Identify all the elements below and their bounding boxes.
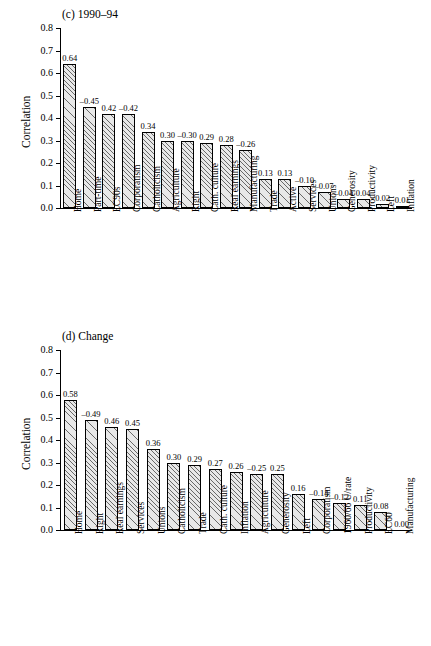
chart-panel-c: (c) 1990–94 Correlation0.00.10.20.30.40.… (0, 0, 431, 320)
bar (63, 64, 76, 208)
x-axis-category-label: Home (73, 189, 83, 212)
y-axis-tick-label: 0.8 (29, 22, 53, 33)
x-axis-category-label: Cath. culture (210, 163, 220, 212)
x-axis-category-label: Agriculture (260, 490, 270, 534)
y-axis-tick-label: 0.2 (29, 157, 53, 168)
y-axis-line (60, 350, 61, 531)
x-axis-category-label: Home (74, 511, 84, 534)
x-axis-category-label: Inflation (240, 501, 250, 534)
bar-value-label: –0.26 (231, 139, 261, 149)
y-axis-tick-label: 0.5 (29, 412, 53, 423)
x-axis-category-label: Manufacturing (249, 156, 259, 212)
x-axis-category-label: Catholicism (152, 166, 162, 212)
y-axis-tick-label: 0.7 (29, 367, 53, 378)
y-axis-tick-label: 0.3 (29, 135, 53, 146)
x-axis-category-label: Left (302, 518, 312, 534)
x-axis-category-label: Catholicism (177, 488, 187, 534)
bar-value-label: 0.08 (366, 501, 396, 511)
bar-value-label: 0.25 (262, 463, 292, 473)
chart-panel-d: (d) Change Correlation0.00.10.20.30.40.5… (0, 322, 431, 646)
bar-value-label: 0.36 (138, 438, 168, 448)
x-axis-category-label: Inflation (406, 179, 416, 212)
x-axis-category-label: Corporatism (132, 165, 142, 213)
bar-value-label: –0.42 (113, 103, 143, 113)
y-axis-tick-label: 0.4 (29, 434, 53, 445)
x-axis-category-label: Trade (269, 190, 279, 212)
x-axis-category-label: Active (288, 187, 298, 212)
x-axis-category-label: Part-time (93, 177, 103, 212)
x-axis-category-label: Cath. culture (219, 485, 229, 534)
y-axis-tick-label: 0.5 (29, 90, 53, 101)
x-axis-category-label: Productivity (367, 165, 377, 212)
y-axis-tick-label: 0.1 (29, 502, 53, 513)
x-axis-category-label: Services (136, 502, 146, 534)
x-axis-category-label: Manufacturing (405, 478, 415, 534)
x-axis-category-label: Unions (157, 507, 167, 534)
bar-value-label: 0.64 (55, 53, 85, 63)
y-axis-tick-label: 0.7 (29, 45, 53, 56)
x-axis-category-label: 1960/66 U/rate (343, 477, 353, 534)
y-axis-tick-label: 0.0 (29, 202, 53, 213)
y-axis-tick-label: 0.2 (29, 479, 53, 490)
x-axis-category-label: Generosity (281, 492, 291, 534)
y-axis-tick-label: 0.4 (29, 112, 53, 123)
x-axis-category-label: Right (191, 191, 201, 212)
x-axis-category-label: EC90s (112, 187, 122, 212)
y-axis-tick-label: 0.6 (29, 67, 53, 78)
y-axis-tick-label: 0.8 (29, 344, 53, 355)
x-axis-line (60, 530, 412, 531)
x-axis-category-label: Right (95, 513, 105, 534)
bar-value-label: 0.58 (55, 389, 85, 399)
bar-value-label: 0.45 (117, 418, 147, 428)
panel-c-plot-area: Correlation0.00.10.20.30.40.50.60.70.80.… (0, 0, 431, 320)
x-axis-category-label: Real earnings (115, 482, 125, 534)
x-axis-category-label: Real earnings (230, 160, 240, 212)
x-axis-category-label: Trade (198, 512, 208, 534)
y-axis-tick-label: 0.1 (29, 180, 53, 191)
x-axis-category-label: Agriculture (171, 168, 181, 212)
y-axis-tick-label: 0.6 (29, 389, 53, 400)
y-axis-tick-label: 0.0 (29, 524, 53, 535)
y-axis-tick-label: 0.3 (29, 457, 53, 468)
panel-d-plot-area: Correlation0.00.10.20.30.40.50.60.70.80.… (0, 322, 431, 646)
